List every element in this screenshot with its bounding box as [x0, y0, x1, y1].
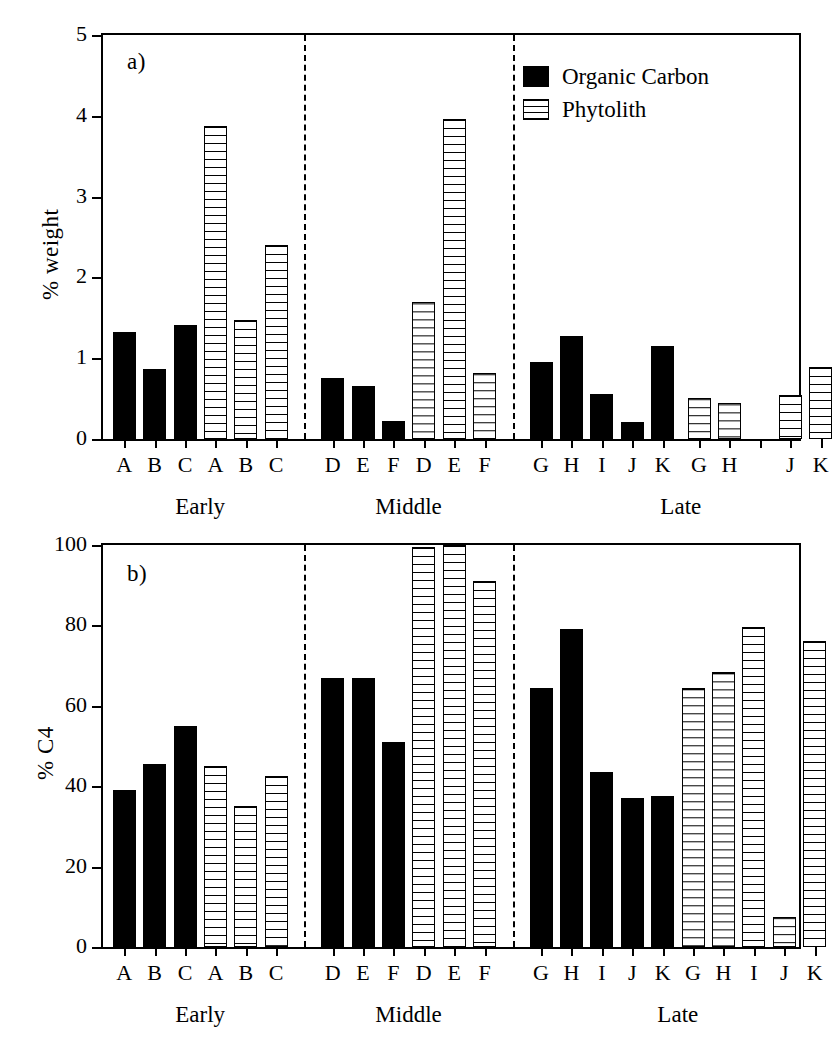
x-tick-label: H: [721, 452, 737, 478]
x-tick-label: E: [447, 452, 460, 478]
bar-organic-carbon: [560, 629, 583, 947]
y-tick-label: 3: [76, 183, 87, 209]
x-tick-label: A: [116, 452, 132, 478]
x-tick: [363, 947, 365, 956]
y-tick-label: 1: [76, 345, 87, 371]
group-separator: [513, 545, 515, 947]
x-tick: [632, 947, 634, 956]
x-tick: [541, 439, 543, 448]
x-tick: [663, 439, 665, 448]
x-tick-label: F: [478, 960, 490, 986]
group-separator: [304, 35, 306, 439]
group-label-middle: Middle: [375, 1002, 441, 1028]
x-tick-label: F: [387, 452, 399, 478]
x-tick: [821, 439, 823, 448]
y-tick: [92, 625, 103, 627]
x-tick: [124, 947, 126, 956]
bar-organic-carbon: [321, 678, 344, 947]
x-tick-label: K: [807, 960, 823, 986]
x-tick: [485, 947, 487, 956]
x-tick: [754, 947, 756, 956]
bar-phytolith: [473, 581, 496, 947]
x-tick: [215, 947, 217, 956]
y-tick: [92, 116, 103, 118]
bar-phytolith: [412, 547, 435, 947]
bar-phytolith: [712, 672, 735, 947]
bar-phytolith: [443, 119, 466, 439]
legend-swatch-organic-carbon: [523, 66, 549, 87]
x-tick: [760, 439, 762, 448]
x-tick-label: B: [147, 960, 162, 986]
group-separator: [304, 545, 306, 947]
legend: Organic Carbon Phytolith: [523, 63, 709, 129]
x-tick: [790, 439, 792, 448]
y-tick-label: 80: [65, 612, 87, 638]
bar-organic-carbon: [382, 421, 405, 439]
bar-organic-carbon: [530, 362, 553, 439]
bar-phytolith: [412, 302, 435, 439]
panel-b-y-axis-label: % C4: [33, 726, 59, 780]
y-tick-label: 5: [76, 21, 87, 47]
bar-organic-carbon: [590, 394, 613, 439]
y-tick: [92, 947, 103, 949]
x-tick-label: J: [628, 452, 637, 478]
y-tick-label: 40: [65, 773, 87, 799]
x-tick-label: G: [685, 960, 701, 986]
y-tick-label: 4: [76, 102, 87, 128]
panel-b-plot-area: b) 020406080100ABCABCDEFDEFGHIJKGHIJKEar…: [101, 543, 801, 949]
bar-phytolith: [473, 373, 496, 439]
bar-organic-carbon: [382, 742, 405, 947]
x-tick-label: A: [116, 960, 132, 986]
bar-organic-carbon: [590, 772, 613, 947]
bar-phytolith: [779, 395, 802, 439]
x-tick-label: C: [178, 960, 193, 986]
x-tick-label: D: [325, 452, 341, 478]
bar-phytolith: [773, 917, 796, 947]
bar-organic-carbon: [352, 678, 375, 947]
y-tick: [92, 439, 103, 441]
x-tick-label: G: [533, 452, 549, 478]
y-tick-label: 60: [65, 692, 87, 718]
x-tick: [602, 439, 604, 448]
x-tick-label: A: [207, 452, 223, 478]
x-tick: [155, 439, 157, 448]
y-tick: [92, 197, 103, 199]
x-tick-label: F: [478, 452, 490, 478]
x-tick-label: J: [786, 452, 795, 478]
bar-organic-carbon: [143, 764, 166, 947]
group-label-early: Early: [175, 1002, 225, 1028]
x-tick: [571, 947, 573, 956]
bar-organic-carbon: [651, 796, 674, 947]
legend-item-phytolith: Phytolith: [523, 96, 709, 122]
bar-phytolith: [809, 367, 832, 439]
x-tick: [333, 439, 335, 448]
x-tick: [276, 947, 278, 956]
bar-organic-carbon: [174, 726, 197, 947]
x-tick-label: G: [691, 452, 707, 478]
x-tick-label: D: [416, 960, 432, 986]
y-tick: [92, 545, 103, 547]
bar-phytolith: [718, 403, 741, 439]
x-tick: [663, 947, 665, 956]
x-tick: [276, 439, 278, 448]
bar-organic-carbon: [143, 369, 166, 439]
bar-organic-carbon: [651, 346, 674, 439]
y-tick-label: 20: [65, 853, 87, 879]
x-tick: [424, 439, 426, 448]
x-tick-label: B: [238, 452, 253, 478]
x-tick-label: F: [387, 960, 399, 986]
x-tick: [699, 439, 701, 448]
x-tick-label: I: [598, 960, 605, 986]
bar-phytolith: [688, 398, 711, 439]
y-tick: [92, 786, 103, 788]
group-separator: [513, 35, 515, 439]
x-tick-label: H: [715, 960, 731, 986]
x-tick-label: K: [655, 960, 671, 986]
panel-a-y-axis-label: % weight: [38, 208, 64, 300]
panel-a-plot-area: a) Organic Carbon Phytolith 012345ABCABC…: [101, 33, 801, 441]
x-tick: [155, 947, 157, 956]
y-tick-label: 100: [54, 531, 87, 557]
x-tick-label: H: [563, 452, 579, 478]
x-tick: [541, 947, 543, 956]
x-tick: [124, 439, 126, 448]
